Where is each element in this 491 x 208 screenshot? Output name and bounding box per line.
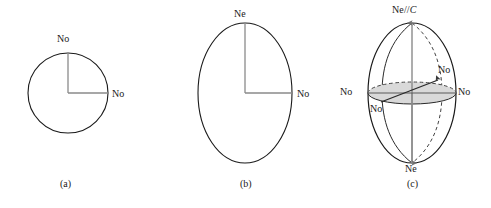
label-ne-bottom-c: Ne xyxy=(405,163,417,174)
label-no-right-a: No xyxy=(112,88,124,99)
caption-c: (c) xyxy=(407,178,418,189)
panel-c-graphic xyxy=(328,0,491,208)
panel-c: Ne//C No No No No Ne (c) xyxy=(328,0,491,208)
panel-a-graphic xyxy=(0,0,164,208)
optical-indicatrix-figure: No No (a) Ne No (b) xyxy=(0,0,491,208)
label-no-diagonal-upper-c: No xyxy=(438,64,450,75)
label-ne-top-b: Ne xyxy=(234,8,246,19)
caption-a: (a) xyxy=(60,178,71,189)
label-no-left-c: No xyxy=(340,86,352,97)
label-ne-text: Ne xyxy=(392,4,404,15)
label-no-top-a: No xyxy=(57,33,69,44)
panel-b-graphic xyxy=(164,0,328,208)
label-no-diagonal-lower-c: No xyxy=(370,103,382,114)
caption-b: (b) xyxy=(240,178,252,189)
label-no-right-c: No xyxy=(458,86,470,97)
label-c-axis-text: C xyxy=(410,4,417,15)
panel-a: No No (a) xyxy=(0,0,164,208)
panel-b: Ne No (b) xyxy=(164,0,328,208)
label-no-right-b: No xyxy=(297,88,309,99)
label-ne-parallel-c-top: Ne//C xyxy=(392,4,416,15)
